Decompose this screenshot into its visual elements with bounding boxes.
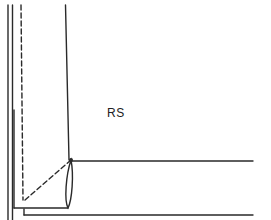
panel-right-edge [66,5,70,160]
dashed-stitch-vertical [21,5,23,200]
right-side-label: RS [107,106,125,120]
sewing-diagram [0,0,271,220]
corner-point [69,158,73,162]
fold-curve [66,160,73,208]
dashed-mitre-diagonal [25,160,71,200]
